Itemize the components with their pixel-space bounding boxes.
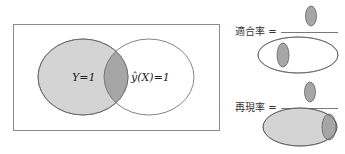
venn-diagram-figure: Y=1 ŷ(X)=1 適合率 = 再現率 = [0,0,345,154]
recall-denominator-lens [322,114,336,140]
precision-numerator-lens [306,6,317,26]
recall-numerator-lens [305,82,316,102]
precision-denominator-lens [277,43,289,67]
label-predicted-positive: ŷ(X)=1 [130,71,170,84]
precision-label: 適合率 = [235,25,277,37]
label-actual-positive: Y=1 [72,71,95,84]
recall-label: 再現率 = [235,101,277,113]
